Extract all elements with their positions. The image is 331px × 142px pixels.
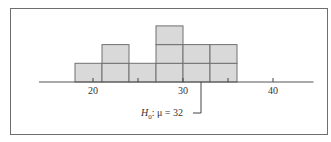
histogram-bar-cell [210,63,237,82]
histogram-bar-cell [75,63,102,82]
histogram-bar-cell [156,45,183,64]
histogram-bar-cell [183,45,210,64]
histogram-bar-cell [129,63,156,82]
anno-rest: : μ = 32 [152,107,183,118]
histogram-chart: 203040 H0: μ = 32 [0,0,331,142]
x-tick-label: 20 [88,85,98,96]
histogram-bar-cell [102,45,129,64]
histogram-bars [75,26,237,82]
hypothesis-pointer-line [193,82,201,113]
x-tick-label: 30 [178,85,188,96]
null-hypothesis-label: H0: μ = 32 [140,107,183,121]
x-tick-label: 40 [268,85,278,96]
histogram-bar-cell [156,63,183,82]
histogram-bar-cell [156,26,183,45]
histogram-bar-cell [102,63,129,82]
histogram-bar-cell [210,45,237,64]
histogram-bar-cell [183,63,210,82]
